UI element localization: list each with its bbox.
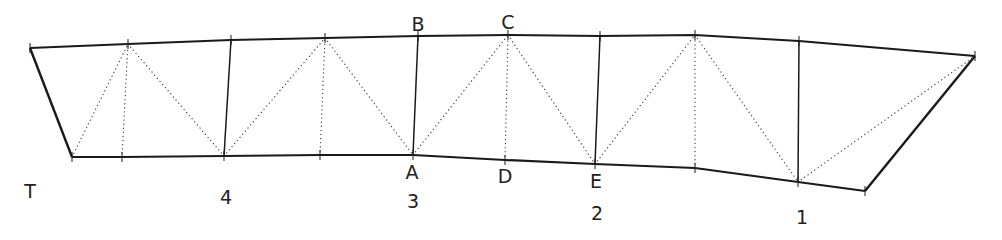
bottom-chord xyxy=(72,155,865,191)
end-post xyxy=(30,48,72,157)
top-chord xyxy=(30,35,975,56)
node-label-c: C xyxy=(501,13,514,32)
dotted-member xyxy=(508,35,595,164)
dotted-member xyxy=(224,38,325,156)
panel-label-3: 3 xyxy=(407,192,419,211)
node-label-a: A xyxy=(406,163,419,182)
dotted-member xyxy=(320,38,325,155)
vertical-member xyxy=(595,36,600,164)
node-label-d: D xyxy=(498,167,513,186)
node-label-e: E xyxy=(590,172,602,191)
vertical-member xyxy=(224,40,231,156)
truss-diagram xyxy=(0,0,1002,240)
dotted-member xyxy=(595,35,695,164)
dotted-member xyxy=(325,38,413,155)
dotted-member xyxy=(413,35,508,155)
dotted-member xyxy=(72,44,128,157)
panel-label-1: 1 xyxy=(796,208,808,227)
vertical-member xyxy=(413,36,418,155)
dotted-member xyxy=(122,44,128,157)
panel-label-2: 2 xyxy=(591,204,603,223)
end-post xyxy=(865,56,975,191)
dotted-member xyxy=(128,44,224,156)
dotted-member xyxy=(695,35,798,182)
vertical-member xyxy=(798,41,799,182)
dotted-member xyxy=(505,35,508,160)
node-label-b: B xyxy=(411,15,424,34)
panel-label-t: T xyxy=(24,182,36,201)
panel-label-4: 4 xyxy=(220,188,232,207)
